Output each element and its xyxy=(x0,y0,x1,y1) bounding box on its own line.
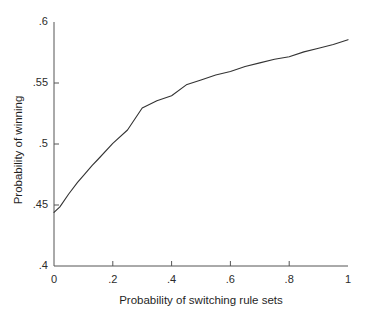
x-axis-title: Probability of switching rule sets xyxy=(54,294,348,306)
x-tick-label: 1 xyxy=(328,274,368,285)
x-tick-label: .6 xyxy=(210,274,250,285)
data-series-line xyxy=(54,40,348,213)
x-tick-label: 0 xyxy=(34,274,74,285)
x-tick-label: .2 xyxy=(93,274,133,285)
chart-figure: .4.45.5.55.6 0.2.4.6.81 Probability of s… xyxy=(0,0,390,317)
axis-frame xyxy=(54,22,348,266)
y-tick-label: .6 xyxy=(6,16,48,27)
y-axis-title: Probability of winning xyxy=(12,75,24,225)
x-axis-ticks xyxy=(113,261,289,266)
y-tick-label: .4 xyxy=(6,260,48,271)
x-tick-label: .8 xyxy=(269,274,309,285)
plot-area xyxy=(0,0,390,317)
x-tick-label: .4 xyxy=(152,274,192,285)
y-axis-ticks xyxy=(54,83,59,205)
